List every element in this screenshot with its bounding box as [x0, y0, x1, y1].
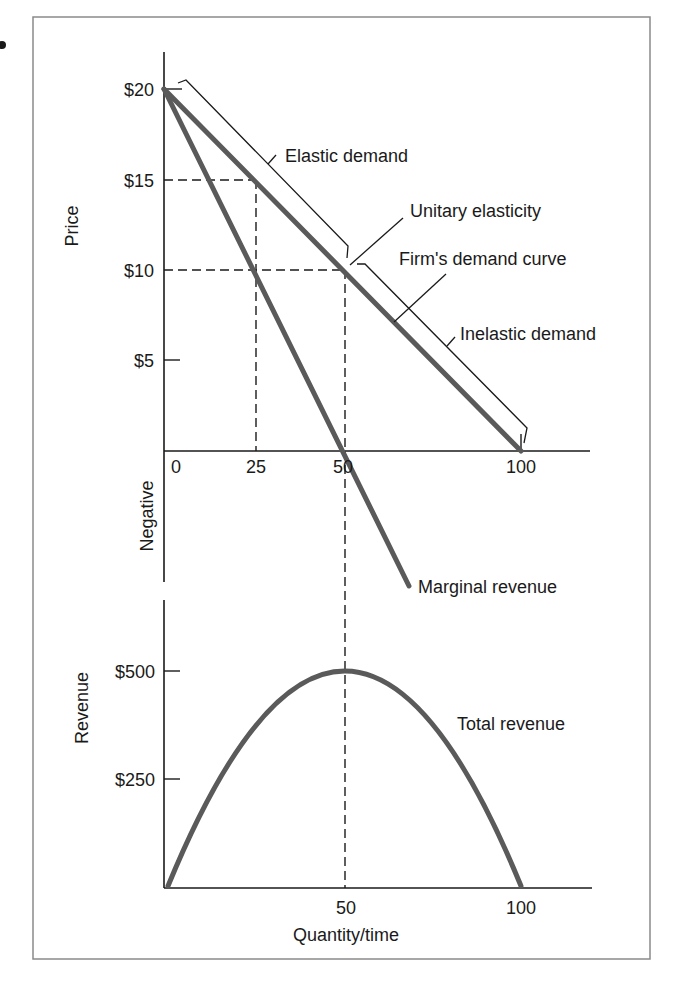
inelastic-bracket	[357, 264, 527, 443]
reference-lines	[164, 180, 345, 888]
quantity-axis-title: Quantity/time	[293, 925, 399, 945]
tick-label-500: $500	[115, 662, 155, 682]
economics-figure: $20 $15 $10 $5 0 25 50 100 Price Negativ…	[0, 0, 679, 984]
unitary-elasticity-label: Unitary elasticity	[410, 201, 541, 221]
revenue-panel: $500 $250 50 100 Revenue Quantity/time T…	[72, 600, 592, 945]
clipped-glyph	[0, 41, 6, 49]
tick-label-rq100: 100	[506, 898, 536, 918]
elastic-demand-label: Elastic demand	[285, 146, 408, 166]
tick-label-q25: 25	[246, 457, 266, 477]
demand-curve-leader	[394, 274, 446, 322]
tick-label-rq50: 50	[336, 898, 356, 918]
inelastic-leader	[447, 337, 455, 346]
inelastic-demand-label: Inelastic demand	[460, 324, 596, 344]
tick-label-q100: 100	[506, 457, 536, 477]
price-axis-title: Price	[62, 205, 82, 246]
demand-curve	[164, 89, 521, 451]
negative-axis-title: Negative	[137, 480, 157, 551]
total-revenue-label: Total revenue	[457, 714, 565, 734]
tick-label-250: $250	[115, 770, 155, 790]
tick-label-5: $5	[134, 351, 154, 371]
tick-label-20: $20	[124, 80, 154, 100]
tick-label-q50: 50	[333, 457, 353, 477]
revenue-axis-title: Revenue	[72, 672, 92, 744]
price-panel: $20 $15 $10 $5 0 25 50 100 Price Negativ…	[62, 52, 596, 888]
tick-label-q0: 0	[171, 457, 181, 477]
tick-label-10: $10	[124, 261, 154, 281]
tick-label-15: $15	[124, 171, 154, 191]
elastic-leader	[268, 155, 276, 164]
marginal-revenue-label: Marginal revenue	[418, 577, 557, 597]
unitary-leader	[350, 218, 403, 265]
demand-curve-label: Firm's demand curve	[399, 249, 566, 269]
